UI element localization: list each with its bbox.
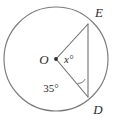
center-dot bbox=[54, 57, 58, 61]
label-angle-35: 35° bbox=[43, 82, 58, 94]
geometry-canvas: O E D x° 35° bbox=[0, 0, 116, 121]
angle-arc-at-d bbox=[78, 79, 86, 84]
label-center-o: O bbox=[39, 52, 49, 67]
label-vertex-e: E bbox=[94, 5, 103, 20]
label-angle-x: x° bbox=[63, 53, 74, 65]
label-vertex-d: D bbox=[92, 102, 103, 117]
geometry-figure: O E D x° 35° bbox=[0, 0, 116, 121]
